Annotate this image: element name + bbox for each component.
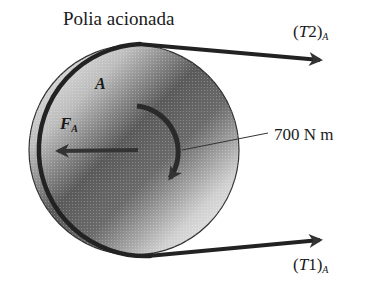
force-label: FA: [60, 115, 78, 134]
force-symbol: F: [60, 114, 71, 133]
tension-symbol: T: [299, 255, 308, 274]
force-fa-arrow: [58, 150, 138, 151]
driven-pulley-diagram: Polia acionada A FA 700 N m (T2)A (T1)A: [0, 0, 368, 285]
pulley-label: A: [95, 76, 106, 92]
diagram-title: Polia acionada: [63, 9, 174, 28]
tension-index: 2: [308, 22, 317, 41]
tension-t2-label: (T2)A: [293, 23, 328, 42]
tension-symbol: T: [299, 22, 308, 41]
force-subscript: A: [71, 123, 78, 134]
tension-t1-label: (T1)A: [293, 256, 328, 275]
tension-subscript: A: [322, 31, 328, 42]
torque-label: 700 N m: [274, 126, 334, 143]
tension-subscript: A: [322, 264, 328, 275]
tension-index: 1: [308, 255, 317, 274]
